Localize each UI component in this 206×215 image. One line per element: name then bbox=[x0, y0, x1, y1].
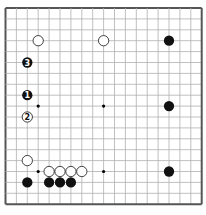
white-stone[interactable]: 2 bbox=[22, 112, 32, 122]
stone-circle bbox=[98, 36, 108, 46]
stone-circle bbox=[77, 166, 87, 176]
black-stone[interactable] bbox=[55, 177, 65, 187]
stone-circle bbox=[164, 36, 174, 46]
black-stone[interactable] bbox=[66, 177, 76, 187]
black-stone[interactable] bbox=[22, 177, 32, 187]
star-point bbox=[37, 170, 40, 173]
stone-circle bbox=[44, 166, 54, 176]
move-number-label: 2 bbox=[25, 113, 31, 122]
black-stone[interactable] bbox=[164, 36, 174, 46]
white-stone[interactable] bbox=[98, 36, 108, 46]
go-board[interactable]: 312 bbox=[0, 0, 206, 215]
white-stone[interactable] bbox=[33, 36, 43, 46]
stone-circle bbox=[22, 155, 32, 165]
stone-circle bbox=[55, 177, 65, 187]
stone-circle bbox=[164, 166, 174, 176]
star-point bbox=[102, 105, 105, 108]
white-stone[interactable] bbox=[66, 166, 76, 176]
black-stone[interactable] bbox=[44, 177, 54, 187]
stone-circle bbox=[66, 177, 76, 187]
white-stone[interactable] bbox=[55, 166, 65, 176]
black-stone[interactable] bbox=[164, 101, 174, 111]
stone-circle bbox=[164, 101, 174, 111]
star-point bbox=[37, 105, 40, 108]
black-stone[interactable]: 1 bbox=[22, 90, 32, 100]
black-stone[interactable] bbox=[164, 166, 174, 176]
star-point bbox=[102, 170, 105, 173]
move-number-label: 1 bbox=[25, 91, 31, 100]
stone-circle bbox=[22, 177, 32, 187]
white-stone[interactable] bbox=[77, 166, 87, 176]
stone-circle bbox=[66, 166, 76, 176]
move-number-label: 3 bbox=[25, 59, 31, 68]
white-stone[interactable] bbox=[22, 155, 32, 165]
stone-circle bbox=[44, 177, 54, 187]
black-stone[interactable]: 3 bbox=[22, 57, 32, 67]
white-stone[interactable] bbox=[44, 166, 54, 176]
stone-circle bbox=[55, 166, 65, 176]
stone-circle bbox=[33, 36, 43, 46]
